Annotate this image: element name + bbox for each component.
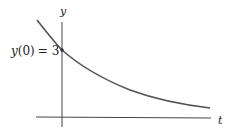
x-axis-label: t — [218, 114, 223, 127]
annotation-arg: (0) — [18, 44, 35, 58]
y-axis-label: y — [59, 5, 67, 18]
decay-curve — [37, 20, 210, 108]
decay-graph: y t y(0)= 3 — [0, 0, 230, 132]
annotation-eq: = 3 — [38, 44, 60, 58]
initial-point — [60, 48, 64, 52]
initial-condition-label: y(0)= 3 — [10, 44, 59, 58]
